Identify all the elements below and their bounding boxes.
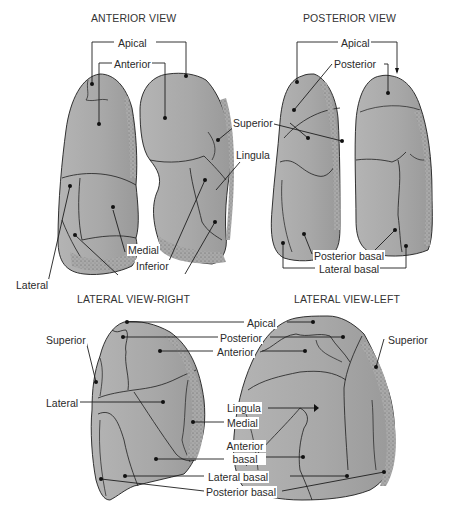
label-posterior-posterior: Posterior (333, 58, 377, 70)
label-posterior-basal: Posterior basal (313, 250, 385, 262)
label-superior-center: Superior (232, 117, 274, 129)
label-lateral-left-superior: Superior (387, 334, 429, 346)
label-posterior-apical: Apical (340, 37, 371, 49)
label-lingula-anterior: Lingula (235, 149, 271, 161)
anterior-left-lung (140, 73, 234, 264)
label-anterior-apical: Apical (117, 37, 148, 49)
label-lateral-anterior: Anterior (216, 346, 255, 358)
anterior-view-title: ANTERIOR VIEW (91, 12, 176, 24)
apical-arrowhead (395, 68, 399, 74)
label-anterior-lateral: Lateral (15, 279, 49, 291)
label-lateral-lingula: Lingula (226, 402, 262, 414)
label-lateral-basal-posterior: Lateral basal (318, 263, 380, 275)
label-lateral-posterior: Posterior (219, 332, 263, 344)
label-posterior-basal-lateral: Posterior basal (205, 486, 277, 498)
posterior-view-title: POSTERIOR VIEW (303, 12, 396, 24)
lateral-right-lung (91, 321, 205, 500)
label-anterior-basal-line1: Anterior (224, 440, 266, 452)
label-lateral-medial: Medial (226, 417, 259, 429)
label-lateral-apical: Apical (246, 317, 277, 329)
posterior-left-lung (271, 74, 340, 261)
label-lateral-right-lateral: Lateral (45, 397, 79, 409)
lung-segments-diagram: ANTERIOR VIEW POSTERIOR VIEW LATERAL VIE… (0, 0, 449, 506)
lateral-right-title: LATERAL VIEW-RIGHT (77, 293, 190, 305)
label-anterior-medial: Medial (127, 244, 160, 256)
lateral-left-title: LATERAL VIEW-LEFT (294, 293, 400, 305)
label-anterior-anterior: Anterior (113, 58, 152, 70)
label-anterior-basal-line2: basal (224, 453, 266, 465)
label-lateral-right-superior: Superior (45, 334, 87, 346)
label-anterior-inferior: Inferior (135, 260, 170, 272)
label-lateral-basal: Lateral basal (207, 471, 269, 483)
